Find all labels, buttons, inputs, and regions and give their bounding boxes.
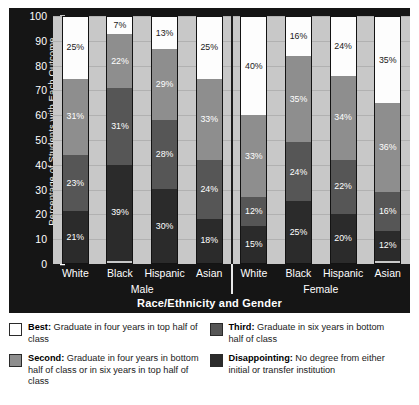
bar-segment[interactable]: 39% bbox=[107, 165, 132, 261]
bar-segment-label: 31% bbox=[67, 112, 85, 121]
legend-swatch-icon bbox=[210, 354, 223, 367]
bar-segment-label: 25% bbox=[290, 228, 308, 237]
bar-segment[interactable]: 24% bbox=[331, 17, 356, 76]
legend-swatch-icon bbox=[9, 354, 22, 367]
bar-segment-label: 25% bbox=[200, 43, 218, 52]
x-group-label: Male bbox=[53, 282, 232, 296]
y-axis-tick-labels: 0102030405060708090100 bbox=[21, 16, 47, 264]
stacked-bar[interactable]: 24%34%22%20% bbox=[330, 16, 357, 264]
bar-segment[interactable]: 7% bbox=[107, 17, 132, 34]
stacked-bar[interactable]: 25%33%24%18% bbox=[196, 16, 223, 264]
bar-segment[interactable]: 16% bbox=[375, 192, 400, 231]
bar-segment-label: 36% bbox=[379, 143, 397, 152]
bar-segment[interactable]: 18% bbox=[197, 219, 222, 263]
legend-item[interactable]: Best: Graduate in four years in top half… bbox=[9, 322, 210, 345]
legend-text: Second: Graduate in four years in bottom… bbox=[28, 353, 200, 388]
x-tick-label: White bbox=[232, 266, 277, 281]
legend-swatch-icon bbox=[9, 323, 22, 336]
bar-segment[interactable]: 15% bbox=[241, 226, 266, 263]
legend-description: Graduate in four years in top half of cl… bbox=[28, 322, 198, 344]
x-axis-title: Race/Ethnicity and Gender bbox=[9, 297, 410, 309]
bar-slot: 25%33%24%18% bbox=[187, 16, 232, 264]
legend-key: Disappointing: bbox=[229, 353, 293, 363]
stacked-bar[interactable]: 40%33%12%15% bbox=[240, 16, 267, 264]
bar-segment-label: 13% bbox=[156, 29, 174, 38]
bar-segment[interactable]: 21% bbox=[63, 211, 88, 263]
bar-segment-label: 28% bbox=[156, 150, 174, 159]
bar-segment[interactable]: 12% bbox=[241, 197, 266, 227]
bar-segment-label: 12% bbox=[379, 241, 397, 250]
y-tick-label: 50 bbox=[21, 135, 47, 146]
bar-segment[interactable]: 35% bbox=[286, 56, 311, 142]
legend-item[interactable]: Second: Graduate in four years in bottom… bbox=[9, 353, 210, 388]
bar-segment[interactable]: 34% bbox=[331, 76, 356, 160]
legend-item[interactable]: Third: Graduate in six years in bottom h… bbox=[210, 322, 411, 345]
bar-segment-label: 20% bbox=[334, 234, 352, 243]
bar-segment[interactable]: 29% bbox=[152, 49, 177, 120]
bar-segment[interactable]: 24% bbox=[197, 160, 222, 219]
bar-slot: 24%34%22%20% bbox=[321, 16, 366, 264]
bar-segment[interactable]: 22% bbox=[331, 160, 356, 214]
legend-text: Best: Graduate in four years in top half… bbox=[28, 322, 200, 345]
legend-key: Third: bbox=[229, 322, 255, 332]
x-tick-label: Hispanic bbox=[321, 266, 366, 281]
y-tick-label: 0 bbox=[21, 259, 47, 270]
bar-segment[interactable]: 24% bbox=[286, 142, 311, 201]
y-tick-label: 40 bbox=[21, 160, 47, 171]
bar-segment[interactable]: 25% bbox=[286, 201, 311, 263]
bar-slot: 7%22%31%39% bbox=[98, 16, 143, 264]
bar-segment-label: 24% bbox=[200, 185, 218, 194]
bar-segment-label: 39% bbox=[111, 208, 129, 217]
x-group-label: Female bbox=[232, 282, 411, 296]
legend-item[interactable]: Disappointing: No degree from either ini… bbox=[210, 353, 411, 376]
bar-segment[interactable]: 36% bbox=[375, 103, 400, 192]
bar-segment-label: 16% bbox=[379, 207, 397, 216]
bar-slot: 13%29%28%30% bbox=[142, 16, 187, 264]
bar-segment[interactable]: 33% bbox=[197, 79, 222, 160]
bar-segment-label: 18% bbox=[200, 236, 218, 245]
y-tick-label: 100 bbox=[21, 11, 47, 22]
bar-segment[interactable]: 25% bbox=[197, 17, 222, 79]
bar-segment[interactable]: 20% bbox=[331, 214, 356, 263]
bar-segment[interactable]: 16% bbox=[286, 17, 311, 56]
legend-column-right: Third: Graduate in six years in bottom h… bbox=[210, 322, 411, 398]
stacked-bar[interactable]: 25%31%23%21% bbox=[62, 16, 89, 264]
bar-segment[interactable]: 31% bbox=[107, 88, 132, 164]
stacked-bar[interactable]: 35%36%16%12% bbox=[374, 16, 401, 264]
bar-segment-label: 33% bbox=[200, 115, 218, 124]
bar-segment-label: 29% bbox=[156, 80, 174, 89]
x-tick-label: Black bbox=[98, 266, 143, 281]
group-divider-line bbox=[231, 16, 233, 264]
bar-segment[interactable]: 12% bbox=[375, 231, 400, 261]
plot-area: 25%31%23%21%7%22%31%39%13%29%28%30%25%33… bbox=[53, 16, 410, 264]
stacked-bar[interactable]: 16%35%24%25% bbox=[285, 16, 312, 264]
bar-segment-label: 30% bbox=[156, 222, 174, 231]
y-tick-label: 80 bbox=[21, 60, 47, 71]
bar-segment-label: 21% bbox=[67, 233, 85, 242]
bar-segment[interactable]: 40% bbox=[241, 17, 266, 115]
bar-segment[interactable]: 23% bbox=[63, 155, 88, 212]
legend-swatch-icon bbox=[210, 323, 223, 336]
y-tick-label: 20 bbox=[21, 209, 47, 220]
bar-segment[interactable]: 35% bbox=[375, 17, 400, 103]
bar-segment[interactable]: 28% bbox=[152, 120, 177, 189]
y-tick-label: 70 bbox=[21, 85, 47, 96]
x-tick-label: Black bbox=[276, 266, 321, 281]
bar-segment[interactable]: 30% bbox=[152, 189, 177, 263]
bar-slot: 16%35%24%25% bbox=[276, 16, 321, 264]
bar-segment-label: 24% bbox=[290, 168, 308, 177]
bar-segment[interactable]: 25% bbox=[63, 17, 88, 79]
legend-column-left: Best: Graduate in four years in top half… bbox=[9, 322, 210, 398]
bar-segment[interactable]: 22% bbox=[107, 34, 132, 88]
bar-segment[interactable]: 13% bbox=[152, 17, 177, 49]
bar-slot: 40%33%12%15% bbox=[232, 16, 277, 264]
stacked-bar[interactable]: 7%22%31%39% bbox=[106, 16, 133, 264]
y-tick-label: 10 bbox=[21, 234, 47, 245]
x-tick-label: Asian bbox=[187, 266, 232, 281]
bar-segment-label: 15% bbox=[245, 240, 263, 249]
bar-segment[interactable]: 33% bbox=[241, 115, 266, 196]
bar-segment-label: 16% bbox=[290, 32, 308, 41]
stacked-bar[interactable]: 13%29%28%30% bbox=[151, 16, 178, 264]
bar-segment[interactable]: 31% bbox=[63, 79, 88, 155]
bar-segment-label: 31% bbox=[111, 122, 129, 131]
